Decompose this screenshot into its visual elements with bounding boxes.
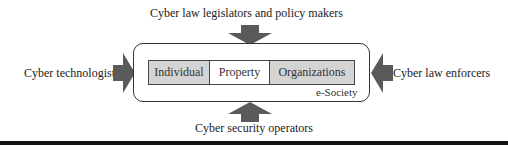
- down-arrow-icon: [228, 25, 272, 45]
- right-arrow-icon: [113, 53, 135, 93]
- e-society-label: e-Society: [316, 86, 358, 98]
- top-label: Cyber law legislators and policy makers: [150, 6, 343, 21]
- left-arrow-icon: [371, 53, 393, 93]
- entity-row: Individual Property Organizations: [148, 60, 355, 85]
- bottom-rule: [0, 141, 508, 145]
- right-label: Cyber law enforcers: [393, 66, 490, 81]
- cell-organizations: Organizations: [269, 61, 354, 84]
- bottom-label: Cyber security operators: [195, 121, 313, 136]
- up-arrow-icon: [228, 102, 272, 122]
- cell-property: Property: [209, 61, 269, 84]
- left-label: Cyber technologists: [24, 66, 120, 81]
- cell-individual: Individual: [149, 61, 209, 84]
